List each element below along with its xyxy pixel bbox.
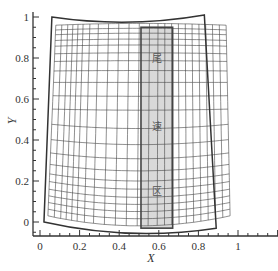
outer-boundary (44, 15, 216, 234)
x-tick-label: 0.8 (192, 240, 206, 252)
mesh-column-line (94, 24, 99, 223)
zone-annotation-label: 区 (152, 186, 162, 197)
outer-boundary-path (44, 15, 216, 234)
mesh-column-line (185, 24, 186, 223)
y-tick-label: 0 (24, 216, 30, 228)
mesh-column-line (104, 24, 108, 225)
mesh-column-line (199, 24, 201, 221)
mesh-row-line (49, 182, 229, 190)
y-tick-label: 1 (24, 11, 30, 23)
y-tick-label: 0.2 (15, 175, 29, 187)
x-tick-label: 0 (37, 240, 43, 252)
mesh-row-line (48, 216, 230, 226)
mesh-row-line (50, 174, 230, 181)
mesh-column-line (84, 24, 90, 222)
mesh-row-line (52, 109, 228, 110)
y-tick-label: 0.4 (15, 134, 29, 146)
mesh-column-line (77, 24, 83, 221)
mesh-column-line (72, 24, 78, 220)
mesh-row-line (49, 203, 230, 212)
mesh-row-line (56, 23, 226, 25)
x-tick-label: 1 (235, 240, 241, 252)
x-tick-label: 0.4 (112, 240, 126, 252)
y-tick-label: 0.8 (15, 52, 29, 64)
mesh-column-line (226, 25, 230, 216)
mesh-row-line (48, 209, 230, 219)
mesh-column-line (66, 25, 73, 220)
zone-annotation-label: 速 (152, 121, 162, 132)
computational-mesh (48, 23, 230, 225)
mesh-row-line (51, 153, 229, 159)
mesh-column-line (192, 24, 194, 222)
mesh-chart: 尾速区 00.20.40.60.8100.20.40.60.81 X Y (0, 0, 278, 271)
mesh-column-line (115, 24, 119, 226)
zone-annotation-label: 尾 (152, 53, 162, 64)
x-axis-title: X (146, 251, 155, 265)
mesh-row-line (51, 140, 228, 145)
mesh-row-line (49, 189, 230, 197)
mesh-column-line (137, 23, 139, 225)
y-axis-title: Y (5, 116, 19, 124)
mesh-row-line (52, 124, 229, 128)
y-tick-label: 0.6 (15, 93, 29, 105)
x-tick-label: 0.2 (73, 240, 87, 252)
mesh-column-line (178, 24, 179, 224)
mesh-column-line (48, 25, 56, 216)
mesh-row-line (50, 164, 229, 171)
mesh-column-line (126, 23, 129, 225)
